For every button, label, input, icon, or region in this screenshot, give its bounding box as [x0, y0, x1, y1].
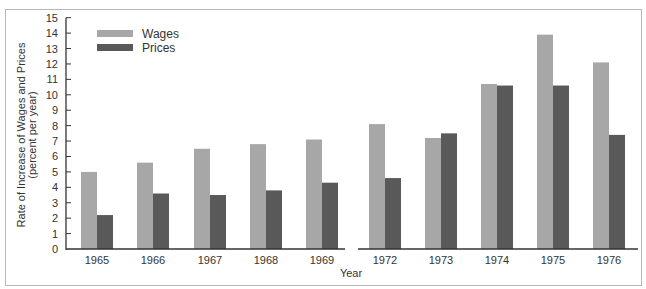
x-tick-label: 1974 [485, 254, 509, 266]
y-tick-label: 0 [52, 243, 58, 255]
y-tick-label: 14 [46, 27, 58, 39]
bar-chart: 0123456789101112131415 19651966196719681… [0, 0, 646, 289]
legend-swatch-wages [97, 30, 133, 37]
y-axis-title-line2: (percent per year) [26, 91, 38, 178]
bar-wages-1967 [194, 149, 210, 249]
y-tick-label: 2 [52, 212, 58, 224]
bar-wages-1975 [537, 35, 553, 249]
x-axis: 1965196619671968196919721973197419751976 [66, 249, 638, 266]
x-tick-label: 1965 [85, 254, 109, 266]
legend-swatch-prices [97, 44, 133, 51]
bar-prices-1974 [497, 86, 513, 249]
x-tick-label: 1976 [597, 254, 621, 266]
y-tick-label: 7 [52, 135, 58, 147]
legend-label-prices: Prices [142, 41, 175, 55]
bar-prices-1965 [97, 215, 113, 249]
x-tick-label: 1968 [254, 254, 278, 266]
bar-prices-1975 [553, 86, 569, 249]
x-tick-label: 1975 [541, 254, 565, 266]
bar-wages-1973 [425, 138, 441, 249]
bar-wages-1966 [137, 163, 153, 249]
bar-wages-1968 [250, 144, 266, 249]
y-tick-label: 1 [52, 228, 58, 240]
y-tick-label: 5 [52, 166, 58, 178]
x-tick-label: 1966 [141, 254, 165, 266]
bar-prices-1967 [210, 195, 226, 249]
legend: Wages Prices [97, 27, 179, 55]
y-tick-label: 6 [52, 150, 58, 162]
y-tick-label: 9 [52, 104, 58, 116]
bar-wages-1972 [369, 124, 385, 249]
x-tick-label: 1973 [429, 254, 453, 266]
y-tick-label: 10 [46, 89, 58, 101]
y-tick-label: 8 [52, 120, 58, 132]
y-axis-title: Rate of Increase of Wages and Prices (pe… [15, 42, 38, 227]
x-tick-label: 1967 [198, 254, 222, 266]
y-tick-label: 4 [52, 181, 58, 193]
bar-wages-1976 [593, 62, 609, 249]
y-axis: 0123456789101112131415 [46, 12, 71, 255]
y-tick-label: 3 [52, 197, 58, 209]
bar-wages-1969 [306, 140, 322, 249]
bar-prices-1976 [609, 135, 625, 249]
y-tick-label: 11 [47, 73, 58, 85]
bar-wages-1974 [481, 84, 497, 249]
bar-prices-1973 [441, 133, 457, 249]
bar-prices-1968 [266, 190, 282, 249]
y-tick-label: 15 [46, 12, 58, 24]
bars [81, 35, 625, 249]
bar-prices-1969 [322, 183, 338, 249]
bar-wages-1965 [81, 172, 97, 249]
bar-prices-1966 [153, 193, 169, 249]
x-tick-label: 1972 [373, 254, 397, 266]
bar-prices-1972 [385, 178, 401, 249]
y-tick-label: 13 [46, 43, 58, 55]
x-axis-title: Year [340, 267, 363, 279]
y-tick-label: 12 [46, 58, 58, 70]
x-tick-label: 1969 [310, 254, 334, 266]
legend-label-wages: Wages [142, 27, 179, 41]
